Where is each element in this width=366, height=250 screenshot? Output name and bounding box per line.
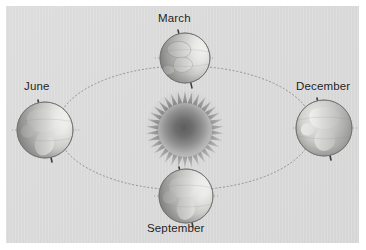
sun-icon	[145, 90, 225, 170]
season-label-september: September	[147, 222, 205, 234]
season-label-june: June	[24, 80, 50, 92]
season-label-march: March	[158, 12, 191, 24]
globe-landmass-march	[155, 33, 210, 83]
diagram-canvas	[0, 0, 366, 250]
earth-globe-september	[154, 167, 220, 227]
earth-globe-december	[290, 98, 359, 160]
season-label-december: December	[296, 80, 350, 92]
earth-globe-march	[155, 30, 215, 88]
earth-globe-june	[11, 100, 80, 162]
seasons-diagram-figure: March June September December	[0, 0, 366, 250]
